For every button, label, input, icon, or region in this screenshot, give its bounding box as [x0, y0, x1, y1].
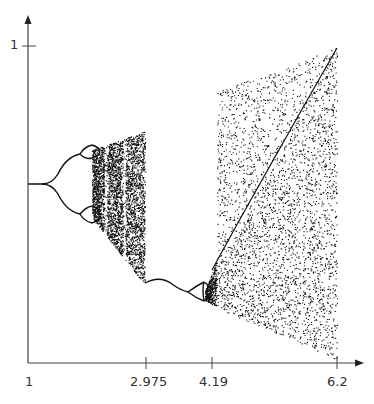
x-tick-label-1: 1 [25, 374, 33, 389]
x-axis [28, 357, 364, 369]
bifurcation-plot [0, 0, 374, 404]
y-axis-arrow-icon [25, 15, 32, 24]
x-tick-label-419: 4.19 [199, 374, 228, 389]
scatter-points [28, 48, 338, 359]
x-axis-arrow-icon [355, 360, 364, 367]
x-tick-label-62: 6.2 [327, 374, 348, 389]
y-tick-label-1: 1 [10, 37, 18, 52]
x-tick-label-2975: 2.975 [130, 374, 167, 389]
y-axis [22, 15, 36, 363]
